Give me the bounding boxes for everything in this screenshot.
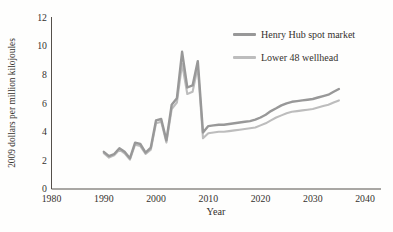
y-tick-label-4: 4 (42, 126, 47, 137)
y-tick-label-10: 10 (37, 40, 47, 51)
y-tick-label-2: 2 (42, 155, 47, 166)
series-line-lower-48-wellhead (104, 64, 339, 160)
x-axis-label: Year (207, 206, 226, 217)
x-tick-label-1990: 1990 (94, 193, 114, 204)
legend-swatch-henry-hub (233, 33, 256, 36)
y-tick-label-6: 6 (42, 98, 47, 109)
legend-label-lower48: Lower 48 wellhead (261, 52, 338, 63)
chart-figure: 0246810121980199020002010202020302040 Ye… (0, 0, 393, 232)
legend-label-henry-hub: Henry Hub spot market (261, 29, 355, 40)
y-axis-label: 2009 dollars per million kilojoules (7, 38, 17, 168)
x-tick-label-2010: 2010 (199, 193, 219, 204)
y-tick-label-12: 12 (37, 12, 47, 23)
legend: Henry Hub spot market Lower 48 wellhead (233, 28, 355, 64)
x-tick-label-2020: 2020 (251, 193, 271, 204)
legend-swatch-lower48 (233, 56, 256, 58)
y-tick-label-8: 8 (42, 69, 47, 80)
legend-item-lower48: Lower 48 wellhead (233, 51, 355, 64)
x-tick-label-2040: 2040 (355, 193, 375, 204)
x-tick-label-2000: 2000 (146, 193, 166, 204)
x-tick-label-2030: 2030 (303, 193, 323, 204)
series-line-henry-hub-spot-market (104, 52, 339, 159)
x-tick-label-1980: 1980 (42, 193, 62, 204)
legend-item-henry-hub: Henry Hub spot market (233, 28, 355, 41)
series-lines (104, 52, 339, 160)
